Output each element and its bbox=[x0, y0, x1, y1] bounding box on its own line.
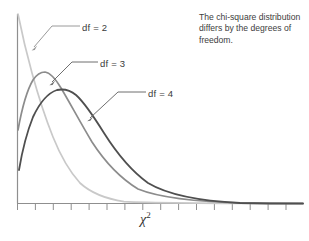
curve-df-4 bbox=[19, 89, 303, 203]
chart-caption: The chi-square distribution differs by t… bbox=[199, 12, 303, 46]
annotation-arrow-df-2 bbox=[32, 26, 80, 50]
series-label-df-4: df = 4 bbox=[148, 88, 173, 99]
x-axis-label: χ2 bbox=[140, 210, 151, 228]
chi-square-distribution-figure: df = 2 df = 3 df = 4 The chi-square dist… bbox=[0, 0, 309, 241]
x-axis-label-exponent: 2 bbox=[146, 210, 151, 220]
series-label-df-3: df = 3 bbox=[100, 58, 125, 69]
x-axis-ticks bbox=[18, 204, 287, 211]
series-label-df-2: df = 2 bbox=[82, 22, 107, 33]
annotation-arrow-df-4 bbox=[87, 92, 146, 121]
